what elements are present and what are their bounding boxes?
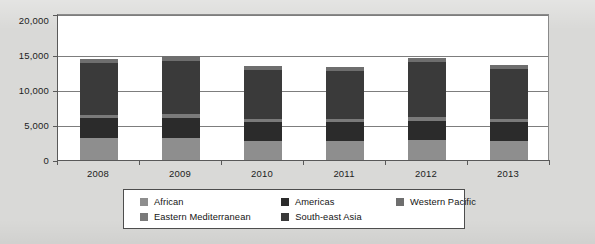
chart-page: 20,000 15,000 10,000 5,000 0 20082009201… <box>0 0 595 244</box>
legend-item-eastern-mediterranean: Eastern Mediterranean <box>124 212 281 222</box>
bar-segment-african <box>162 138 200 161</box>
bar-segment-americas <box>326 122 364 141</box>
legend-label: Americas <box>295 197 335 207</box>
bar-segment-african <box>326 141 364 161</box>
x-tick <box>303 160 304 165</box>
legend-swatch-icon <box>281 198 289 206</box>
bar-segment-south-east-asia <box>80 63 118 115</box>
bar-segment-americas <box>408 121 446 141</box>
legend-row: African Americas Western Pacific <box>124 194 464 209</box>
x-tick <box>57 160 58 165</box>
bar-2012 <box>408 58 446 161</box>
legend-swatch-icon <box>140 213 148 221</box>
gridline-5000 <box>58 126 548 127</box>
x-axis-label-2012: 2012 <box>415 168 437 179</box>
y-axis-label-10000: 10,000 <box>19 85 49 96</box>
x-tick <box>385 160 386 165</box>
bar-segment-south-east-asia <box>490 69 528 119</box>
y-tick-5000 <box>53 126 58 127</box>
legend-item-americas: Americas <box>281 197 396 207</box>
y-axis-label-15000: 15,000 <box>19 50 49 61</box>
bar-segment-americas <box>162 118 200 139</box>
x-tick <box>221 160 222 165</box>
legend-item-african: African <box>124 197 281 207</box>
bar-segment-south-east-asia <box>408 62 446 117</box>
gridline-15000 <box>58 56 548 57</box>
y-axis-label-5000: 5,000 <box>24 120 49 131</box>
x-axis-label-2009: 2009 <box>169 168 191 179</box>
plot-area <box>57 14 549 161</box>
legend-item-south-east-asia: South-east Asia <box>281 212 396 222</box>
legend-label: Western Pacific <box>410 197 476 207</box>
legend-swatch-icon <box>396 198 404 206</box>
bar-2013 <box>490 65 528 161</box>
legend-label: African <box>154 197 184 207</box>
gridline-10000 <box>58 91 548 92</box>
x-axis-label-2013: 2013 <box>497 168 519 179</box>
bar-segment-americas <box>490 122 528 141</box>
legend-swatch-icon <box>281 213 289 221</box>
bar-2009 <box>162 56 200 161</box>
legend-row: Eastern Mediterranean South-east Asia <box>124 209 464 224</box>
legend-label: South-east Asia <box>295 212 362 222</box>
x-axis-label-2011: 2011 <box>333 168 354 179</box>
bar-2010 <box>244 66 282 161</box>
bar-2011 <box>326 67 364 161</box>
bar-segment-americas <box>244 122 282 141</box>
y-tick-15000 <box>53 56 58 57</box>
x-tick <box>467 160 468 165</box>
bar-segment-south-east-asia <box>244 70 282 119</box>
x-axis-label-2010: 2010 <box>251 168 273 179</box>
bar-segment-african <box>244 141 282 161</box>
bar-2008 <box>80 58 118 161</box>
chart-legend: African Americas Western Pacific Eastern… <box>123 189 465 229</box>
bar-segment-south-east-asia <box>326 71 364 120</box>
y-axis-label-0: 0 <box>44 155 49 166</box>
x-axis-label-2008: 2008 <box>87 168 109 179</box>
bar-segment-americas <box>80 118 118 138</box>
y-tick-10000 <box>53 91 58 92</box>
legend-item-western-pacific: Western Pacific <box>396 197 464 207</box>
y-axis-labels: 20,000 15,000 10,000 5,000 0 <box>0 0 49 244</box>
legend-swatch-icon <box>140 198 148 206</box>
bar-segment-african <box>408 140 446 161</box>
y-axis-label-20000: 20,000 <box>19 15 49 26</box>
x-tick <box>139 160 140 165</box>
x-tick <box>549 160 550 165</box>
bar-segment-south-east-asia <box>162 61 200 115</box>
gridline-20000 <box>58 15 548 16</box>
bar-segment-african <box>490 141 528 161</box>
y-tick-20000 <box>53 15 58 16</box>
bar-segment-african <box>80 138 118 161</box>
legend-label: Eastern Mediterranean <box>154 212 251 222</box>
